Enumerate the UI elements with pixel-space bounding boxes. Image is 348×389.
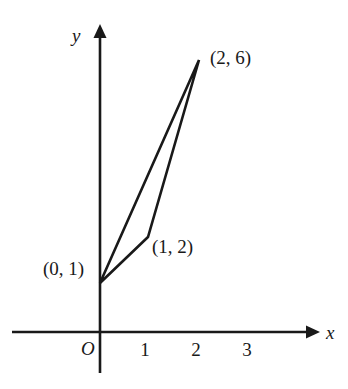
point-label-1-2: (1, 2) [152,237,193,256]
y-axis [94,24,107,373]
origin-label: O [81,339,95,358]
coordinate-figure: y x O 1 2 3 (0, 1) (1, 2) (2, 6) [0,0,348,389]
point-label-2-6: (2, 6) [210,48,251,67]
figure-canvas [0,0,348,389]
x-tick-label-1: 1 [136,340,154,359]
x-axis [12,326,320,339]
x-axis-label: x [326,323,334,342]
y-axis-label: y [72,26,80,45]
x-tick-label-3: 3 [238,340,256,359]
x-axis-arrowhead-icon [306,326,320,339]
point-label-0-1: (0, 1) [43,259,84,278]
y-axis-arrowhead-icon [94,24,107,38]
x-tick-label-2: 2 [187,340,205,359]
